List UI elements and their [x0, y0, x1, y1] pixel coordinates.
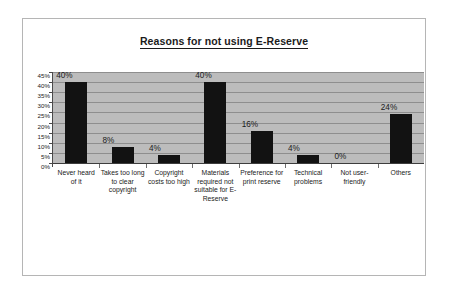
x-axis-tick	[285, 164, 286, 168]
bar[interactable]	[112, 147, 134, 163]
y-axis-tick	[49, 112, 53, 113]
x-axis-tick	[146, 164, 147, 168]
plot-wrapper: 45%40%35%30%25%20%15%10%5%0% 40%8%4%40%1…	[53, 76, 424, 167]
x-axis-category-label: Never heard of it	[54, 169, 98, 186]
y-axis-tick-label: 15%	[38, 133, 50, 141]
chart-frame: Reasons for not using E-Reserve 45%40%35…	[22, 18, 426, 276]
bar-slot[interactable]	[192, 72, 238, 163]
y-axis-tick	[49, 92, 53, 93]
x-axis-category-label: Technical problems	[286, 169, 330, 186]
bar-value-label: 0%	[334, 152, 346, 161]
y-axis-tick	[49, 82, 53, 83]
x-axis-category-label: Copyright costs too high	[147, 169, 191, 186]
y-axis-tick	[49, 143, 53, 144]
x-axis-category-label: Materials required not suitable for E-Re…	[193, 169, 237, 203]
x-axis-line	[52, 163, 424, 164]
x-axis-category-label: Others	[379, 169, 423, 178]
x-axis-category-label: Preference for print reserve	[240, 169, 284, 186]
x-axis-tick	[192, 164, 193, 168]
bar-slot[interactable]	[99, 72, 145, 163]
y-axis-tick-label: 30%	[38, 102, 50, 110]
y-axis-tick	[49, 153, 53, 154]
bar[interactable]	[65, 82, 87, 163]
y-axis-tick-label: 45%	[38, 72, 50, 80]
bar-value-label: 4%	[149, 144, 161, 153]
bar-value-label: 40%	[56, 71, 72, 80]
bar-value-label: 40%	[195, 71, 211, 80]
y-axis-tick	[49, 123, 53, 124]
bar-value-label: 16%	[242, 120, 258, 129]
bar[interactable]	[204, 82, 226, 163]
x-axis-category-label: Takes too long to clear copyright	[100, 169, 144, 195]
bar-value-label: 4%	[288, 144, 300, 153]
bar-slot[interactable]	[378, 72, 424, 163]
y-axis-tick-label: 10%	[38, 143, 50, 151]
y-axis-tick	[49, 163, 53, 164]
bar-slot[interactable]	[53, 72, 99, 163]
y-axis-tick-label: 5%	[41, 153, 50, 161]
bar-value-label: 8%	[103, 136, 115, 145]
chart-title: Reasons for not using E-Reserve	[23, 35, 425, 47]
y-axis-tick	[49, 133, 53, 134]
y-axis-tick-label: 25%	[38, 112, 50, 120]
x-axis-tick	[331, 164, 332, 168]
y-axis-tick-label: 40%	[38, 82, 50, 90]
bar[interactable]	[390, 114, 412, 163]
x-axis-tick	[99, 164, 100, 168]
y-axis-tick-label: 20%	[38, 123, 50, 131]
y-axis-tick	[49, 102, 53, 103]
bars-layer: 40%8%4%40%16%4%0%24%	[53, 72, 424, 163]
bar-value-label: 24%	[381, 103, 397, 112]
y-axis-tick-label: 35%	[38, 92, 50, 100]
x-axis-tick	[378, 164, 379, 168]
x-axis-category-labels: Never heard of itTakes too long to clear…	[53, 169, 424, 225]
x-axis-category-label: Not user-friendly	[332, 169, 376, 186]
y-axis-tick	[49, 72, 53, 73]
bar[interactable]	[251, 131, 273, 163]
y-axis-tick-label: 0%	[41, 163, 50, 171]
bar-slot[interactable]	[239, 72, 285, 163]
y-axis-labels: 45%40%35%30%25%20%15%10%5%0%	[24, 71, 50, 172]
bar-slot[interactable]	[331, 72, 377, 163]
bar[interactable]	[158, 155, 180, 163]
x-axis-tick	[239, 164, 240, 168]
chart-title-text: Reasons for not using E-Reserve	[140, 35, 308, 49]
bar[interactable]	[297, 155, 319, 163]
